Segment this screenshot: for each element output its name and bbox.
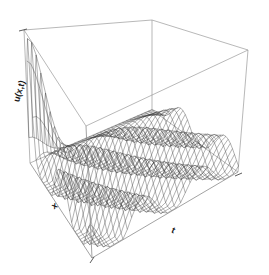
mesh-polyline <box>75 134 216 232</box>
box-edge-top-back <box>24 20 152 30</box>
persp-svg-canvas: u(x,t) x t <box>0 0 269 275</box>
box-edge-top-right <box>152 20 248 50</box>
box-edge-vertical-right <box>238 50 248 172</box>
box-edge-vertical-left <box>24 30 30 163</box>
box-edge-floor-front-right <box>92 172 238 258</box>
mesh-polyline <box>141 112 225 179</box>
surface-wireframe-mesh <box>27 39 239 248</box>
axis-tick-marks <box>19 29 242 263</box>
mesh-polyline <box>89 160 236 247</box>
axis-label-t: t <box>170 225 177 235</box>
box-edge-floor-front-left <box>30 163 92 258</box>
box-edge-floor-back-right <box>152 110 238 172</box>
box-edge-top-front <box>86 50 248 126</box>
axis-label-z: u(x,t) <box>11 79 27 103</box>
box-edge-top-left <box>24 30 86 126</box>
surface-plot-figure: u(x,t) x t <box>0 0 269 275</box>
